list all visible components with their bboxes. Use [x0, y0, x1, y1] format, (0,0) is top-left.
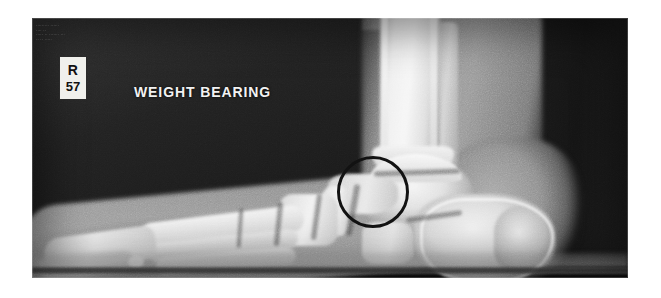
side-marker: R 57 — [59, 56, 87, 100]
side-marker-number: 57 — [66, 80, 80, 93]
radiograph-film: ......... ...... .... .. ..... .. ......… — [32, 18, 628, 278]
radiograph-page: ......... ...... .... .. ..... .. ......… — [0, 0, 661, 298]
region-of-interest-circle — [337, 156, 409, 228]
weight-bearing-label: WEIGHT BEARING — [134, 84, 271, 100]
weight-bearing-platform — [32, 267, 628, 274]
header-overlay-text: ......... ...... .... .. ..... .. ......… — [36, 23, 65, 41]
side-marker-letter: R — [68, 63, 79, 77]
weight-bearing-pad — [32, 253, 628, 267]
tibia-cortex-posterior — [430, 18, 437, 164]
radiograph-image: ......... ...... .... .. ..... .. ......… — [32, 18, 628, 278]
